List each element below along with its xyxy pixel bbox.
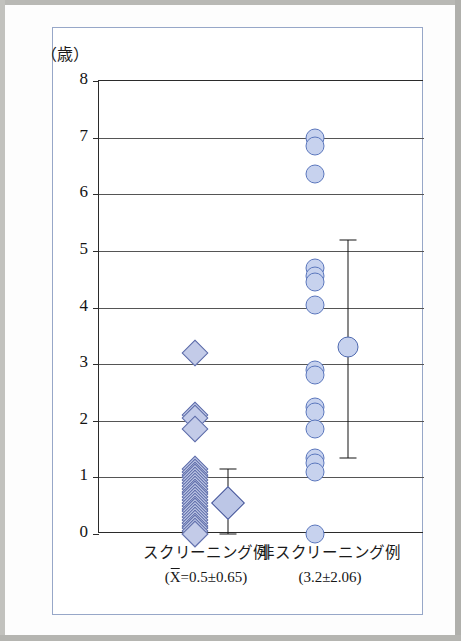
gridline xyxy=(99,138,424,139)
data-point-marker xyxy=(306,420,325,439)
stat-label-screening: (X=0.5±0.65) xyxy=(165,569,248,586)
scan-edge-bottom xyxy=(0,635,461,641)
gridline xyxy=(99,308,424,309)
y-axis-tick xyxy=(93,308,99,309)
error-bar-cap xyxy=(220,468,237,469)
error-bar-cap xyxy=(220,534,237,535)
data-point-marker xyxy=(306,295,325,314)
scan-edge-right xyxy=(455,0,461,641)
error-bar-cap xyxy=(340,457,357,458)
stat-label-non-screening: (3.2±2.06) xyxy=(298,569,361,586)
category-label-screening: スクリーニング例 xyxy=(143,540,269,562)
y-axis-tick-label: 0 xyxy=(60,522,88,542)
data-point-marker xyxy=(182,339,209,366)
y-axis-tick-label: 6 xyxy=(60,182,88,202)
y-axis-tick-label: 4 xyxy=(60,296,88,316)
y-axis-tick-label: 8 xyxy=(60,69,88,89)
y-axis-tick xyxy=(93,194,99,195)
gridline xyxy=(99,477,424,478)
data-point-marker xyxy=(306,366,325,385)
data-point-marker xyxy=(306,273,325,292)
gridline xyxy=(99,364,424,365)
y-axis-tick-label: 1 xyxy=(60,465,88,485)
y-axis-tick xyxy=(93,421,99,422)
paper-surface: （歳） 012345678 スクリーニング例非スクリーニング例(X=0.5±0.… xyxy=(5,5,455,635)
y-axis-tick xyxy=(93,251,99,252)
y-axis-tick xyxy=(93,477,99,478)
data-point-marker xyxy=(306,137,325,156)
plot-area xyxy=(98,80,423,533)
mean-marker xyxy=(211,486,245,520)
scanned-page: （歳） 012345678 スクリーニング例非スクリーニング例(X=0.5±0.… xyxy=(0,0,461,641)
y-axis-tick-label: 5 xyxy=(60,239,88,259)
y-axis-tick-label: 3 xyxy=(60,352,88,372)
gridline xyxy=(99,421,424,422)
data-point-marker xyxy=(306,462,325,481)
gridline xyxy=(99,194,424,195)
y-axis-tick xyxy=(93,534,99,535)
gridline xyxy=(99,251,424,252)
y-axis-tick xyxy=(93,81,99,82)
y-axis-tick xyxy=(93,364,99,365)
y-axis-tick xyxy=(93,138,99,139)
y-axis-tick-label: 7 xyxy=(60,126,88,146)
data-point-marker xyxy=(306,165,325,184)
mean-marker xyxy=(338,337,359,358)
y-axis-tick-label: 2 xyxy=(60,409,88,429)
error-bar-cap xyxy=(340,239,357,240)
y-axis-unit-label: （歳） xyxy=(41,41,89,65)
category-label-non-screening: 非スクリーニング例 xyxy=(259,540,400,562)
